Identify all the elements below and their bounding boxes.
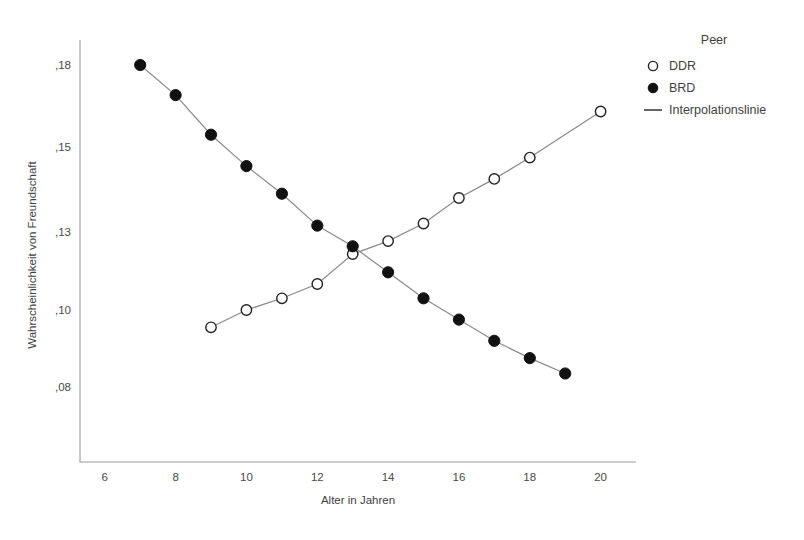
chart-axes xyxy=(80,40,636,462)
axis-frame xyxy=(80,40,636,462)
x-tick-label: 16 xyxy=(453,471,466,483)
y-tick-label: ,08 xyxy=(55,381,71,393)
data-series-group xyxy=(135,59,606,379)
legend-item-label: DDR xyxy=(669,59,696,73)
data-point-brd xyxy=(241,161,252,172)
y-axis-tick-labels: ,18,15,13,10,08 xyxy=(55,59,71,393)
data-point-ddr xyxy=(595,106,605,116)
x-tick-label: 14 xyxy=(382,471,395,483)
data-point-brd xyxy=(383,267,394,278)
data-point-ddr xyxy=(241,305,251,315)
y-tick-label: ,15 xyxy=(55,141,71,153)
data-point-brd xyxy=(453,314,464,325)
data-point-brd xyxy=(276,188,287,199)
data-point-brd xyxy=(347,241,358,252)
data-point-ddr xyxy=(489,174,499,184)
data-point-ddr xyxy=(312,279,322,289)
data-point-ddr xyxy=(525,152,535,162)
interpolation-line xyxy=(211,112,601,328)
x-tick-label: 8 xyxy=(172,471,178,483)
chart-svg: 68101214161820 ,18,15,13,10,08 Alter in … xyxy=(0,0,804,540)
x-axis-tick-labels: 68101214161820 xyxy=(102,471,607,483)
y-tick-label: ,13 xyxy=(55,226,71,238)
x-tick-label: 20 xyxy=(594,471,607,483)
series-ddr xyxy=(206,106,606,332)
data-point-ddr xyxy=(418,218,428,228)
y-tick-label: ,18 xyxy=(55,59,71,71)
data-point-brd xyxy=(560,368,571,379)
data-point-brd xyxy=(418,293,429,304)
x-tick-label: 6 xyxy=(102,471,108,483)
data-point-ddr xyxy=(454,193,464,203)
interpolation-line xyxy=(140,65,565,374)
x-tick-label: 12 xyxy=(311,471,324,483)
legend-item-label: BRD xyxy=(669,81,695,95)
data-point-brd xyxy=(524,353,535,364)
series-brd xyxy=(135,59,571,379)
chart-container: 68101214161820 ,18,15,13,10,08 Alter in … xyxy=(0,0,804,540)
legend-item-ddr[interactable]: DDR xyxy=(648,59,696,73)
data-point-brd xyxy=(170,90,181,101)
data-point-ddr xyxy=(277,293,287,303)
legend-items: DDRBRDInterpolationslinie xyxy=(644,59,766,117)
data-point-ddr xyxy=(383,236,393,246)
legend-title: Peer xyxy=(701,33,727,47)
data-point-brd xyxy=(135,59,146,70)
legend-open-circle-icon xyxy=(648,61,657,70)
data-point-ddr xyxy=(206,322,216,332)
data-point-brd xyxy=(205,129,216,140)
chart-legend: Peer DDRBRDInterpolationslinie xyxy=(644,33,766,117)
data-point-brd xyxy=(312,220,323,231)
legend-item-label: Interpolationslinie xyxy=(669,103,766,117)
x-tick-label: 10 xyxy=(240,471,253,483)
legend-item-brd[interactable]: BRD xyxy=(648,81,695,95)
y-axis-title: Wahrscheinlichkeit von Freundschaft xyxy=(26,160,38,348)
y-tick-label: ,10 xyxy=(55,304,71,316)
data-point-brd xyxy=(489,335,500,346)
x-axis-title: Alter in Jahren xyxy=(321,494,395,506)
legend-item-interpolationslinie[interactable]: Interpolationslinie xyxy=(644,103,766,117)
x-tick-label: 18 xyxy=(523,471,536,483)
legend-filled-circle-icon xyxy=(648,83,658,93)
